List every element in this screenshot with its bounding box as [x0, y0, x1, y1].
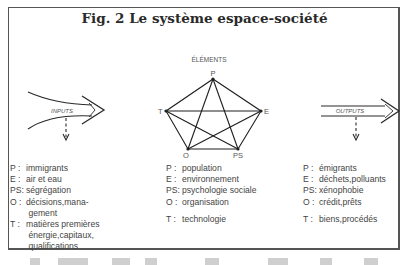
legend-key: E :: [166, 174, 182, 185]
node-label-p: P: [210, 69, 215, 78]
node-label-t: T: [158, 107, 163, 116]
legend-value: immigrants: [26, 163, 68, 174]
legend-row: O :organisation: [166, 197, 257, 208]
outputs-arrow-icon: [321, 99, 399, 140]
legend-row: T :technologie: [166, 214, 257, 225]
legend-key: PS:: [303, 185, 319, 196]
legend-row: PS:psychologie sociale: [166, 185, 257, 196]
legend-key: O :: [303, 197, 319, 208]
legend-key: O :: [10, 197, 26, 219]
legend-value: air et eau: [26, 174, 62, 185]
inputs-legend: P :immigrants E :air et eau PS:ségrégati…: [10, 163, 100, 253]
legend-value: biens,procédés: [319, 214, 377, 225]
outputs-label: OUTPUTS: [336, 108, 365, 114]
elements-heading: ÉLÉMENTS: [191, 55, 227, 63]
elements-pentagon: [166, 79, 261, 149]
outputs-legend: P :émigrants E :déchets,polluants PS:xén…: [303, 163, 386, 225]
legend-value: émigrants: [319, 163, 357, 174]
legend-row: E :déchets,polluants: [303, 174, 386, 185]
legend-row: P :immigrants: [10, 163, 100, 174]
pentagon-vertices: [164, 77, 262, 150]
legend-key: O :: [166, 197, 182, 208]
legend-value: xénophobie: [319, 185, 363, 196]
legend-key: PS:: [10, 185, 26, 196]
legend-row: T :biens,procédés: [303, 214, 386, 225]
inputs-arrow-icon: [28, 92, 104, 140]
legend-row: P :population: [166, 163, 257, 174]
node-label-o: O: [183, 151, 189, 160]
legend-key: T :: [166, 214, 182, 225]
cropped-text-line: [0, 258, 409, 265]
node-label-e: E: [264, 107, 269, 116]
legend-key: P :: [166, 163, 182, 174]
legend-key: P :: [303, 163, 319, 174]
legend-row: E :air et eau: [10, 174, 100, 185]
node-label-ps: PS: [233, 151, 243, 160]
legend-key: E :: [10, 174, 26, 185]
legend-row: PS:xénophobie: [303, 185, 386, 196]
legend-row: P :émigrants: [303, 163, 386, 174]
legend-key: PS:: [166, 185, 182, 196]
legend-key: E :: [303, 174, 319, 185]
legend-value: crédit,prêts: [319, 197, 362, 208]
legend-key: P :: [10, 163, 26, 174]
legend-row: O :crédit,prêts: [303, 197, 386, 208]
legend-row: T :matières premières énergie,capitaux, …: [10, 219, 100, 253]
elements-legend: P :population E :environnement PS:psycho…: [166, 163, 257, 225]
inputs-label: INPUTS: [51, 108, 73, 114]
legend-value: organisation: [182, 197, 229, 208]
legend-value: environnement: [182, 174, 239, 185]
legend-key: T :: [303, 214, 319, 225]
legend-value: technologie: [182, 214, 226, 225]
legend-value: population: [182, 163, 222, 174]
legend-value: décisions,mana- gement: [26, 197, 89, 219]
legend-value: psychologie sociale: [182, 185, 257, 196]
legend-value: ségrégation: [26, 185, 71, 196]
legend-value: déchets,polluants: [319, 174, 386, 185]
legend-row: E :environnement: [166, 174, 257, 185]
legend-value: matières premières énergie,capitaux, qua…: [26, 219, 100, 253]
legend-key: T :: [10, 219, 26, 253]
legend-row: O :décisions,mana- gement: [10, 197, 100, 219]
legend-row: PS:ségrégation: [10, 185, 100, 196]
